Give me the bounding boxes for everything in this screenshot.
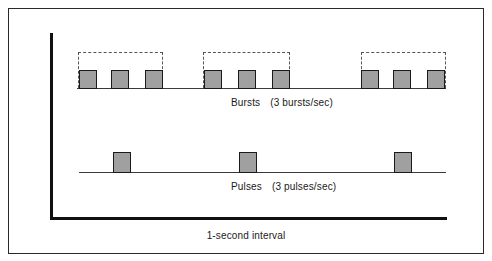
burst-pulse-square [111, 70, 129, 89]
burst-pulse-square [79, 70, 97, 89]
burst-pulse-square [145, 70, 163, 89]
burst-pulse-square [272, 70, 290, 89]
burst-pulse-square [361, 70, 379, 89]
interval-label: 1-second interval [8, 230, 484, 242]
diagram-canvas: Bursts (3 bursts/sec) Pulses (3 pulses/s… [0, 0, 492, 261]
pulses-label: Pulses [231, 181, 262, 193]
bursts-label-row: Bursts (3 bursts/sec) [231, 97, 333, 109]
pulses-rate-label: (3 pulses/sec) [272, 181, 336, 193]
burst-pulse-square [238, 70, 256, 89]
y-axis-line [50, 33, 53, 220]
burst-pulse-square [204, 70, 222, 89]
bursts-rate-label: (3 bursts/sec) [270, 97, 333, 109]
burst-pulse-square [393, 70, 411, 89]
pulses-label-row: Pulses (3 pulses/sec) [231, 181, 336, 193]
bursts-label: Bursts [231, 97, 260, 109]
pulses-baseline [79, 172, 446, 173]
burst-pulse-square [427, 70, 445, 89]
x-axis-line [50, 217, 447, 220]
pulse-square [394, 152, 412, 173]
pulse-square [113, 152, 131, 173]
bursts-baseline [77, 88, 446, 89]
pulse-square [239, 152, 257, 173]
